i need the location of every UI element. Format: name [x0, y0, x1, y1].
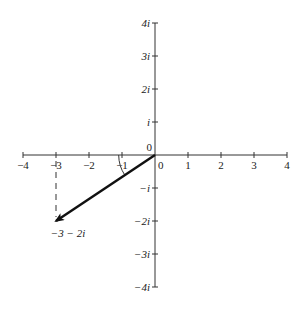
real-tick-label: 1	[185, 159, 191, 171]
imaginary-tick-label: −i	[140, 182, 150, 194]
imaginary-tick-label: −4i	[134, 281, 150, 293]
real-tick-label: 4	[284, 159, 290, 171]
complex-plane-svg: −4−3−2−11234 4i3i2ii−i−2i−3i−4i 0 0 −3 −…	[0, 0, 302, 320]
imaginary-tick-label: 2i	[141, 83, 150, 95]
imaginary-tick-label: −3i	[134, 248, 150, 260]
imaginary-tick-label: −2i	[134, 215, 150, 227]
imaginary-tick-label: i	[147, 116, 150, 128]
vector-label: −3 − 2i	[51, 227, 85, 239]
origin-label-above: 0	[147, 141, 153, 153]
real-tick-label: −4	[17, 159, 29, 171]
origin-label-below: 0	[158, 159, 164, 171]
real-tick-label: 2	[218, 159, 224, 171]
imaginary-tick-label: 4i	[141, 17, 150, 29]
complex-plane-diagram: −4−3−2−11234 4i3i2ii−i−2i−3i−4i 0 0 −3 −…	[0, 0, 302, 320]
imaginary-tick-label: 3i	[140, 50, 150, 62]
real-tick-label: −2	[83, 159, 95, 171]
real-tick-label: 3	[251, 159, 257, 171]
